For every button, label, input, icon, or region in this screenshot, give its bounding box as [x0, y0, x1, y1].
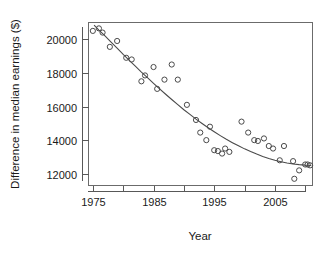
data-point — [107, 44, 112, 49]
data-point — [252, 138, 257, 143]
scatter-plot: 1200014000160001800020000 19751985199520… — [0, 0, 329, 255]
data-point — [290, 159, 295, 164]
data-point — [90, 28, 95, 33]
data-point — [246, 130, 251, 135]
data-point — [239, 119, 244, 124]
x-tick-label: 1985 — [142, 196, 166, 208]
data-point — [227, 149, 232, 154]
data-point — [175, 77, 180, 82]
y-axis-ticks — [83, 40, 89, 175]
chart-screenshot: 1200014000160001800020000 19751985199520… — [0, 0, 329, 255]
data-point — [184, 102, 189, 107]
data-point — [261, 136, 266, 141]
x-tick-label: 1995 — [202, 196, 226, 208]
data-point — [277, 158, 282, 163]
data-point — [292, 176, 297, 181]
data-point — [204, 138, 209, 143]
data-point — [151, 64, 156, 69]
data-point — [270, 146, 275, 151]
x-axis-title: Year — [188, 230, 211, 242]
data-point — [219, 151, 224, 156]
data-point — [297, 168, 302, 173]
data-point — [198, 130, 203, 135]
fitted-trend-curve — [94, 25, 311, 165]
data-point — [115, 38, 120, 43]
x-axis-ticks — [94, 186, 306, 192]
y-tick-label: 18000 — [46, 68, 77, 80]
x-tick-label: 1975 — [81, 196, 105, 208]
data-point — [255, 138, 260, 143]
y-tick-label: 12000 — [46, 169, 77, 181]
x-tick-label: 2005 — [263, 196, 287, 208]
x-axis-tick-labels: 1975198519952005 — [81, 196, 287, 208]
data-point — [281, 143, 286, 148]
data-point — [169, 62, 174, 67]
data-points — [90, 26, 312, 182]
data-point — [139, 79, 144, 84]
data-point — [162, 77, 167, 82]
y-axis-tick-labels: 1200014000160001800020000 — [46, 34, 77, 181]
y-tick-label: 20000 — [46, 34, 77, 46]
y-axis-title: Difference in median earnings ($) — [9, 19, 21, 189]
data-point — [212, 148, 217, 153]
y-tick-label: 16000 — [46, 102, 77, 114]
y-tick-label: 14000 — [46, 135, 77, 147]
data-point — [129, 57, 134, 62]
